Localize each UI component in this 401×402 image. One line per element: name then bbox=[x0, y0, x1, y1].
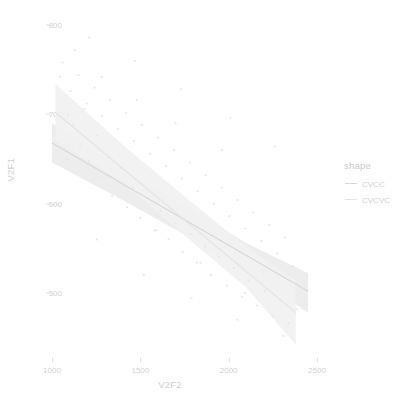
data-point bbox=[190, 297, 192, 299]
data-point bbox=[199, 262, 201, 264]
data-point bbox=[96, 238, 98, 240]
data-point bbox=[139, 217, 141, 219]
data-point bbox=[126, 206, 128, 208]
data-point bbox=[175, 122, 177, 124]
legend-title: shape bbox=[344, 160, 400, 171]
regression-line-cvcc bbox=[52, 143, 308, 291]
data-point bbox=[165, 165, 167, 167]
regression-line-cvcvc bbox=[56, 113, 296, 313]
data-point bbox=[101, 115, 103, 117]
data-point bbox=[96, 135, 98, 137]
y-tick-mark bbox=[46, 25, 50, 26]
data-point bbox=[59, 76, 61, 78]
data-point bbox=[260, 240, 262, 242]
data-point bbox=[204, 245, 206, 247]
data-point bbox=[62, 61, 64, 63]
data-point bbox=[268, 224, 270, 226]
legend-label: CVCC bbox=[362, 180, 385, 189]
data-point bbox=[296, 308, 298, 310]
x-tick-2500: 2500 bbox=[308, 366, 326, 375]
data-point bbox=[93, 86, 95, 88]
data-point bbox=[236, 319, 238, 321]
data-point bbox=[77, 74, 79, 76]
data-point bbox=[190, 233, 192, 235]
data-point bbox=[173, 149, 175, 151]
data-point bbox=[88, 160, 90, 162]
data-point bbox=[88, 36, 90, 38]
legend-entries: CVCCCVCVC bbox=[344, 177, 400, 207]
data-point bbox=[69, 90, 71, 92]
x-tick-1000: 1000 bbox=[43, 366, 61, 375]
data-point bbox=[229, 117, 231, 119]
data-point bbox=[181, 178, 183, 180]
data-point bbox=[100, 76, 102, 78]
data-point bbox=[196, 262, 198, 264]
data-point bbox=[72, 124, 74, 126]
data-point bbox=[272, 315, 274, 317]
data-point bbox=[157, 136, 159, 138]
data-point bbox=[132, 186, 134, 188]
data-point bbox=[67, 113, 69, 115]
data-point bbox=[218, 256, 220, 258]
data-point bbox=[284, 237, 286, 239]
data-point bbox=[85, 103, 87, 105]
y-tick-mark bbox=[46, 114, 50, 115]
legend: shape CVCCCVCVC bbox=[344, 160, 400, 209]
data-point bbox=[276, 253, 278, 255]
data-point bbox=[143, 274, 145, 276]
data-point bbox=[100, 176, 102, 178]
data-point bbox=[109, 99, 111, 101]
data-point bbox=[288, 322, 290, 324]
data-point bbox=[149, 153, 151, 155]
data-point bbox=[180, 88, 182, 90]
data-point bbox=[84, 108, 86, 110]
data-point bbox=[133, 140, 135, 142]
data-point bbox=[189, 161, 191, 163]
data-point bbox=[228, 215, 230, 217]
data-point bbox=[248, 279, 250, 281]
data-point bbox=[160, 210, 162, 212]
y-tick-mark bbox=[46, 203, 50, 204]
x-tick-2000: 2000 bbox=[220, 366, 238, 375]
legend-entry-cvcc[interactable]: CVCC bbox=[344, 177, 400, 191]
data-point bbox=[141, 124, 143, 126]
data-point bbox=[243, 292, 245, 294]
legend-label: CVCVC bbox=[362, 196, 390, 205]
scatter-plot-figure: V2F1 V2F2 500600700800 shape CVCCCVCVC 1… bbox=[0, 0, 401, 402]
x-tick-mark bbox=[52, 358, 53, 362]
data-point bbox=[74, 49, 76, 51]
x-tick-mark bbox=[229, 358, 230, 362]
data-point bbox=[136, 99, 138, 101]
data-point bbox=[264, 290, 266, 292]
data-point bbox=[213, 203, 215, 205]
data-point bbox=[241, 295, 243, 297]
plot-canvas bbox=[0, 0, 401, 402]
data-point bbox=[292, 265, 294, 267]
data-point bbox=[282, 335, 284, 337]
data-point bbox=[117, 128, 119, 130]
data-point bbox=[274, 145, 276, 147]
data-point bbox=[134, 60, 136, 62]
data-point bbox=[79, 145, 81, 147]
data-point bbox=[244, 228, 246, 230]
data-point bbox=[182, 251, 184, 253]
data-point bbox=[256, 304, 258, 306]
data-point bbox=[155, 229, 157, 231]
legend-line-key-icon bbox=[344, 177, 358, 191]
data-point bbox=[226, 285, 228, 287]
x-tick-1500: 1500 bbox=[131, 366, 149, 375]
data-point bbox=[111, 195, 113, 197]
data-point bbox=[252, 212, 254, 214]
legend-entry-cvcvc[interactable]: CVCVC bbox=[344, 193, 400, 207]
data-point bbox=[175, 222, 177, 224]
x-tick-mark bbox=[140, 358, 141, 362]
data-point bbox=[67, 158, 69, 160]
data-point bbox=[233, 267, 235, 269]
data-point bbox=[205, 174, 207, 176]
data-point bbox=[221, 149, 223, 151]
data-point bbox=[236, 199, 238, 201]
data-point bbox=[197, 190, 199, 192]
data-point bbox=[114, 185, 116, 187]
data-point bbox=[168, 238, 170, 240]
data-point bbox=[210, 274, 212, 276]
